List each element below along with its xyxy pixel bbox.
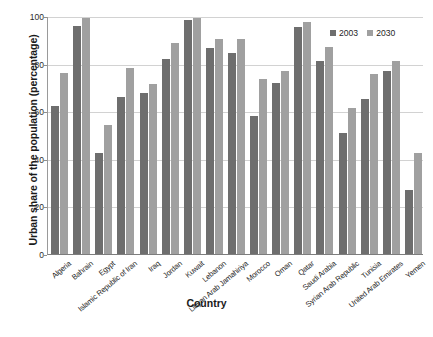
bar [392,61,400,254]
legend-entry: 2003 [330,28,358,38]
bar-group [51,17,69,254]
y-axis-tick-label: 40 [10,155,44,165]
bar [294,27,302,254]
bar-group [162,17,180,254]
bar [405,190,413,254]
bar [316,61,324,254]
bar [281,71,289,254]
y-axis-tick-label: 80 [10,60,44,70]
bar-group [228,17,246,254]
bar [370,74,378,254]
bar [162,59,170,254]
x-axis-tick-label: Yemen [404,259,427,280]
bar-group [272,17,290,254]
bar [325,47,333,254]
bar [348,108,356,254]
bar [237,39,245,254]
bar [140,93,148,254]
bar-group [206,17,224,254]
bar-group [383,17,401,254]
x-axis-tick-label: Iraq [146,259,161,274]
bar-group [316,17,334,254]
plot-area [47,17,423,255]
y-axis-tick-label: 100 [10,12,44,22]
bar-group [361,17,379,254]
bar [149,84,157,254]
bar [259,79,267,254]
bar [414,153,422,254]
bar [303,22,311,254]
bar-group [184,17,202,254]
legend-label: 2003 [339,28,358,38]
bar [215,39,223,254]
legend-entry: 2030 [367,28,395,38]
y-axis-tick-label: 60 [10,107,44,117]
bar [60,73,68,254]
bar [228,53,236,254]
y-axis-tick-mark [43,255,47,256]
bar [126,68,134,254]
bar [171,43,179,254]
x-axis-tick-label: Oman [273,259,294,279]
bar-group [294,17,312,254]
x-axis-title-text: Country [186,297,226,309]
bar [117,97,125,254]
bar-group [117,17,135,254]
legend: 20032030 [330,28,395,38]
x-axis-tick-label: Jordan [161,259,184,280]
legend-swatch-icon [330,30,336,36]
bar [193,18,201,254]
bar [250,116,258,254]
legend-label: 2030 [376,28,395,38]
y-axis-tick-label: 0 [10,250,44,260]
y-axis-tick-label: 20 [10,202,44,212]
bar [272,83,280,254]
bar-group [339,17,357,254]
bar [184,20,192,254]
bar-group [73,17,91,254]
bar [82,18,90,254]
bar [51,106,59,254]
bar [361,99,369,254]
bar [339,133,347,254]
y-axis-title: Urban share of the population (percentag… [27,10,39,270]
bar-chart: Urban share of the population (percentag… [0,0,433,337]
bar-group [405,17,423,254]
bar [383,71,391,254]
x-axis-tick-label: Bahrain [70,259,95,282]
bar [206,48,214,254]
bar [95,153,103,254]
legend-swatch-icon [367,30,373,36]
bar-group [250,17,268,254]
bar [104,125,112,254]
x-axis-tick-label: Morocco [245,259,272,284]
x-axis-title: Country [0,297,433,309]
bar-group [140,17,158,254]
bar [73,26,81,254]
bar-group [95,17,113,254]
x-axis-tick-label: Algeria [50,259,73,280]
